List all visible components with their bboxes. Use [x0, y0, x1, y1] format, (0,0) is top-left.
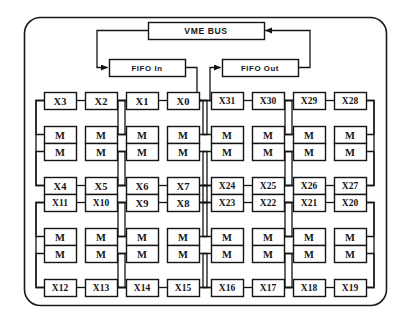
memory-r1-c8-label: M	[345, 130, 355, 141]
memory-r3-c4-label: M	[178, 232, 188, 243]
processor-x31-label: X31	[219, 96, 236, 106]
processor-x17-label: X17	[260, 283, 277, 293]
memory-r1-c6-label: M	[263, 130, 273, 141]
processor-x7-label: X7	[177, 181, 190, 192]
memory-r2-c4-label: M	[178, 147, 188, 158]
memory-r1-c4-label: M	[178, 130, 188, 141]
processor-x5-label: X5	[95, 181, 108, 192]
memory-r1-c1-label: M	[55, 130, 65, 141]
processor-x30-label: X30	[260, 96, 277, 106]
processor-x8-label: X8	[177, 198, 190, 209]
processor-x6-label: X6	[136, 181, 149, 192]
memory-r3-c3-label: M	[137, 232, 147, 243]
memory-r2-c2-label: M	[96, 147, 106, 158]
processor-x24-label: X24	[219, 181, 236, 191]
memory-r3-c6-label: M	[263, 232, 273, 243]
memory-r2-c7-label: M	[304, 147, 314, 158]
processor-x25-label: X25	[260, 181, 277, 191]
processor-x19-label: X19	[342, 283, 359, 293]
figure-canvas: VME BUSFIFO InFIFO OutX3MX2MX1MX0MX31MX3…	[0, 0, 410, 323]
processor-x11-label: X11	[52, 198, 68, 208]
memory-r4-c7-label: M	[304, 249, 314, 260]
memory-r3-c5-label: M	[222, 232, 232, 243]
processor-x22-label: X22	[260, 198, 277, 208]
processor-x26-label: X26	[301, 181, 318, 191]
memory-r2-c3-label: M	[137, 147, 147, 158]
processor-x3-label: X3	[54, 96, 67, 107]
memory-r4-c6-label: M	[263, 249, 273, 260]
processor-x12-label: X12	[52, 283, 69, 293]
processor-x15-label: X15	[175, 283, 192, 293]
processor-x21-label: X21	[301, 198, 318, 208]
processor-x27-label: X27	[342, 181, 359, 191]
processor-x18-label: X18	[301, 283, 318, 293]
processor-x9-label: X9	[136, 198, 149, 209]
memory-r4-c4-label: M	[178, 249, 188, 260]
memory-r4-c2-label: M	[96, 249, 106, 260]
processor-x20-label: X20	[342, 198, 359, 208]
processor-x28-label: X28	[342, 96, 359, 106]
processor-x29-label: X29	[301, 96, 318, 106]
memory-r4-c5-label: M	[222, 249, 232, 260]
memory-r3-c1-label: M	[55, 232, 65, 243]
processor-x10-label: X10	[93, 198, 110, 208]
memory-r2-c1-label: M	[55, 147, 65, 158]
processor-x23-label: X23	[219, 198, 236, 208]
processor-x4-label: X4	[54, 181, 68, 192]
processor-x0-label: X0	[177, 96, 190, 107]
memory-r1-c2-label: M	[96, 130, 106, 141]
memory-r1-c3-label: M	[137, 130, 147, 141]
memory-r4-c1-label: M	[55, 249, 65, 260]
memory-r2-c6-label: M	[263, 147, 273, 158]
vme-bus-box-label: VME BUS	[184, 26, 227, 36]
memory-r3-c7-label: M	[304, 232, 314, 243]
memory-r2-c5-label: M	[222, 147, 232, 158]
processor-x16-label: X16	[219, 283, 236, 293]
memory-r1-c5-label: M	[222, 130, 232, 141]
block-diagram: VME BUSFIFO InFIFO OutX3MX2MX1MX0MX31MX3…	[0, 0, 410, 323]
processor-x14-label: X14	[134, 283, 151, 293]
processor-x1-label: X1	[136, 96, 149, 107]
processor-x13-label: X13	[93, 283, 110, 293]
memory-r4-c8-label: M	[345, 249, 355, 260]
fifo-in-box-label: FIFO In	[131, 64, 162, 73]
memory-r1-c7-label: M	[304, 130, 314, 141]
memory-r3-c8-label: M	[345, 232, 355, 243]
fifo-out-box-label: FIFO Out	[241, 64, 279, 73]
memory-r2-c8-label: M	[345, 147, 355, 158]
processor-x2-label: X2	[95, 96, 108, 107]
memory-r4-c3-label: M	[137, 249, 147, 260]
memory-r3-c2-label: M	[96, 232, 106, 243]
